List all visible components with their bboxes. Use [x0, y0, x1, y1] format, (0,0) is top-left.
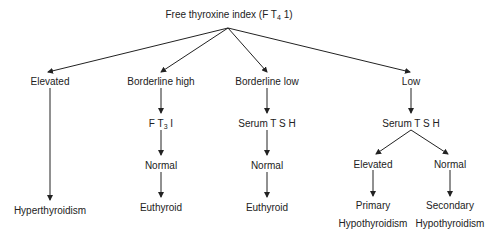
node-tsh-normal: Normal — [434, 159, 466, 171]
node-ft3i: F T3 I — [149, 118, 173, 133]
arrow-root-elevated — [48, 28, 228, 72]
arrow-root-borderline-low — [228, 28, 267, 72]
node-low: Low — [402, 76, 420, 88]
arrow-root-borderline-high — [161, 28, 228, 72]
node-elevated: Elevated — [31, 76, 70, 88]
arrow-root-low — [228, 28, 410, 72]
node-borderline-high: Borderline high — [127, 76, 194, 88]
node-euthyroid-1: Euthyroid — [140, 202, 182, 214]
node-normal-2: Normal — [251, 160, 283, 172]
node-normal-1: Normal — [145, 160, 177, 172]
node-serum-tsh-1: Serum T S H — [238, 118, 295, 130]
node-borderline-low: Borderline low — [235, 76, 298, 88]
node-serum-tsh-2: Serum T S H — [382, 118, 439, 130]
node-secondary: Secondary — [426, 200, 474, 212]
node-hypothyroidism-2: Hypothyroidism — [416, 218, 485, 230]
node-hyperthyroidism: Hyperthyroidism — [14, 205, 86, 217]
node-tsh-elevated: Elevated — [354, 159, 393, 171]
node-primary: Primary — [356, 200, 390, 212]
node-hypothyroidism-1: Hypothyroidism — [339, 218, 408, 230]
root-node: Free thyroxine index (F T4 1) — [165, 9, 292, 24]
node-euthyroid-2: Euthyroid — [246, 202, 288, 214]
